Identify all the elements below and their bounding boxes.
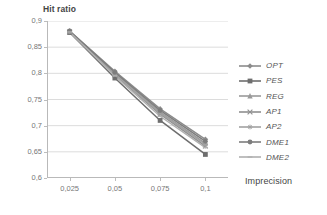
legend-item-ap2[interactable]: AP2 bbox=[238, 119, 324, 134]
legend-label: REG bbox=[262, 92, 284, 101]
data-point-square bbox=[248, 79, 253, 84]
line-chart: Hit ratio Imprecision 0,60,650,70,750,80… bbox=[0, 0, 327, 215]
legend-item-dme2[interactable]: DME2 bbox=[238, 150, 324, 165]
y-tick-label: 0,6 bbox=[12, 173, 42, 182]
legend-marker-x-icon bbox=[238, 105, 262, 119]
legend-marker-line-icon bbox=[238, 150, 262, 164]
y-tick-label: 0,9 bbox=[12, 16, 42, 25]
data-point-star bbox=[248, 124, 253, 129]
legend-marker-diamond-icon bbox=[238, 59, 262, 73]
legend-marker-triangle-icon bbox=[238, 89, 262, 103]
legend-label: DME2 bbox=[262, 153, 289, 162]
legend-item-reg[interactable]: REG bbox=[238, 89, 324, 104]
legend-label: PES bbox=[262, 76, 283, 85]
x-tick-label: 0,075 bbox=[140, 184, 180, 193]
y-tick-label: 0,7 bbox=[12, 121, 42, 130]
legend-item-ap1[interactable]: AP1 bbox=[238, 104, 324, 119]
x-tick-mark bbox=[70, 178, 71, 181]
x-tick-mark bbox=[160, 178, 161, 181]
square-marker bbox=[203, 152, 208, 157]
legend-label: AP2 bbox=[262, 122, 282, 131]
circle-marker bbox=[112, 70, 117, 75]
legend-label: AP1 bbox=[262, 107, 282, 116]
square-marker bbox=[248, 79, 253, 84]
data-point-circle bbox=[112, 70, 117, 75]
y-tick-label: 0,8 bbox=[12, 68, 42, 77]
plot-area bbox=[47, 21, 228, 178]
plot-svg bbox=[47, 21, 228, 178]
y-axis-title: Hit ratio bbox=[43, 4, 76, 14]
data-point-circle bbox=[158, 108, 163, 113]
y-tick-label: 0,65 bbox=[12, 147, 42, 156]
x-tick-mark bbox=[115, 178, 116, 181]
legend-item-opt[interactable]: OPT bbox=[238, 58, 324, 73]
diamond-marker bbox=[247, 63, 253, 69]
x-axis-title: Imprecision bbox=[245, 176, 292, 186]
x-tick-label: 0,05 bbox=[95, 184, 135, 193]
square-marker bbox=[158, 118, 163, 123]
legend-marker-star-icon bbox=[238, 120, 262, 134]
legend-marker-square-icon bbox=[238, 74, 262, 88]
x-tick-label: 0,025 bbox=[50, 184, 90, 193]
data-point-square bbox=[158, 118, 163, 123]
data-point-circle bbox=[203, 139, 208, 144]
circle-marker bbox=[248, 140, 253, 145]
circle-marker bbox=[158, 108, 163, 113]
circle-marker bbox=[203, 139, 208, 144]
legend: OPTPESREGAP1AP2DME1DME2 bbox=[238, 58, 324, 165]
data-point-circle bbox=[248, 140, 253, 145]
y-tick-label: 0,75 bbox=[12, 95, 42, 104]
legend-label: DME1 bbox=[262, 138, 289, 147]
y-tick-mark bbox=[44, 178, 47, 179]
legend-label: OPT bbox=[262, 61, 283, 70]
legend-item-dme1[interactable]: DME1 bbox=[238, 134, 324, 149]
data-point-square bbox=[203, 152, 208, 157]
legend-item-pes[interactable]: PES bbox=[238, 73, 324, 88]
legend-marker-circle-icon bbox=[238, 135, 262, 149]
x-tick-mark bbox=[205, 178, 206, 181]
data-point-diamond bbox=[247, 63, 253, 69]
y-tick-label: 0,85 bbox=[12, 42, 42, 51]
x-tick-label: 0,1 bbox=[185, 184, 225, 193]
